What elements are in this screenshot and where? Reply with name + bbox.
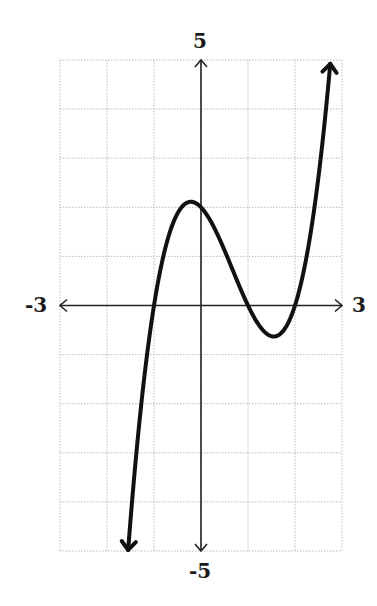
axes bbox=[60, 60, 342, 551]
x-min-label: -3 bbox=[25, 293, 47, 317]
x-max-label: 3 bbox=[352, 293, 366, 317]
cubic-function-chart: 5 -5 -3 3 bbox=[0, 0, 377, 606]
y-max-label: 5 bbox=[193, 29, 207, 53]
y-min-label: -5 bbox=[189, 559, 211, 583]
function-curve bbox=[128, 64, 330, 550]
